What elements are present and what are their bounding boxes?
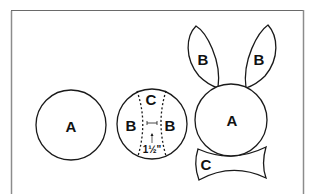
plate-cut-pattern: C B B 1½" [117,89,187,159]
label-b-cut-right: B [165,117,176,134]
label-b-ear-left: B [198,51,209,68]
plate-whole: A [36,90,106,160]
assembled-bunny: B B C A [188,25,276,180]
label-a-head: A [227,112,238,129]
label-a-whole: A [66,118,77,135]
measurement-label: 1½" [143,144,162,155]
diagram-canvas: A C B B 1½" B B C A [0,0,315,194]
label-b-cut-left: B [126,117,137,134]
label-b-ear-right: B [254,51,265,68]
label-c-cut: C [146,91,157,108]
label-c-bowtie: C [201,156,212,173]
